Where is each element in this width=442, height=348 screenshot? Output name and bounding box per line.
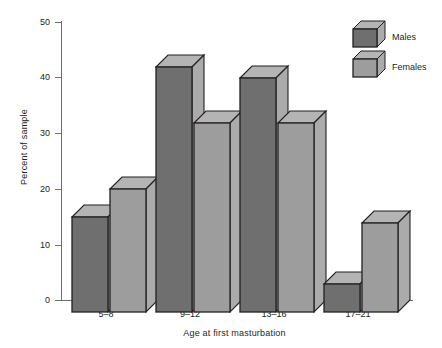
bar-males-17-21 (324, 272, 360, 300)
y-tick-0 (55, 300, 61, 301)
bar-females-13-16 (278, 111, 314, 300)
bar-females-5-8 (110, 177, 146, 300)
legend-swatch-males-icon (352, 20, 386, 48)
y-axis-line (61, 21, 62, 301)
y-tick-label-40: 40 (16, 72, 50, 82)
y-tick-label-10: 10 (16, 240, 50, 250)
y-tick-label-30: 30 (16, 128, 50, 138)
y-tick-40 (55, 77, 61, 78)
bar-males-5-8 (72, 205, 108, 300)
x-axis-title: Age at first masturbation (56, 328, 413, 338)
legend-item-females: Females (352, 50, 440, 80)
bar-chart: Percent of sample 50 40 30 20 10 0 5–8 9… (0, 0, 442, 348)
bar-females-17-21 (362, 211, 398, 300)
y-tick-30 (55, 133, 61, 134)
y-axis-title: Percent of sample (19, 77, 29, 217)
bar-males-13-16 (240, 66, 276, 300)
y-tick-label-20: 20 (16, 184, 50, 194)
legend-swatch-females-icon (352, 50, 386, 78)
y-tick-20 (55, 189, 61, 190)
y-tick-label-0: 0 (16, 295, 50, 305)
y-tick-10 (55, 245, 61, 246)
legend: Males Females (352, 20, 440, 80)
bar-females-9-12 (194, 111, 230, 300)
legend-item-males: Males (352, 20, 440, 50)
bar-males-9-12 (156, 55, 192, 300)
legend-label-females: Females (392, 62, 427, 72)
legend-label-males: Males (392, 32, 416, 42)
y-tick-50 (55, 22, 61, 23)
y-tick-label-50: 50 (16, 17, 50, 27)
